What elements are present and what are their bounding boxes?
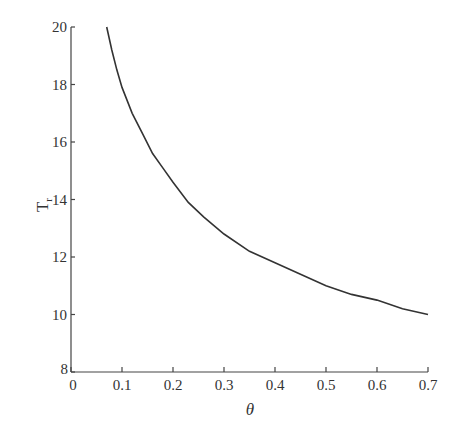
x-tick-label: 0 [69, 377, 77, 393]
x-tick-label: 0.7 [419, 377, 438, 393]
y-tick-label: 18 [52, 77, 67, 93]
y-tick-label: 14 [52, 192, 68, 208]
x-axis-label: θ [246, 400, 254, 419]
x-tick-label: 0.4 [266, 377, 285, 393]
y-axis-label-subscript: r [42, 198, 54, 202]
x-tick-label: 0.6 [368, 377, 387, 393]
y-tick-label: 10 [52, 307, 67, 323]
y-tick-label: 20 [52, 19, 67, 35]
y-axis: 1012141618208 [52, 19, 75, 377]
x-tick-label: 0.1 [113, 377, 132, 393]
y-axis-label: Tr [33, 198, 54, 212]
y-tick-label: 12 [52, 249, 67, 265]
x-tick-label: 0.5 [317, 377, 336, 393]
data-series-line [107, 27, 428, 315]
x-axis: 00.10.20.30.40.50.60.7 [69, 367, 438, 393]
line-chart: 1012141618208 00.10.20.30.40.50.60.7 Tr … [0, 0, 467, 441]
y-tick-label: 16 [52, 134, 68, 150]
x-tick-label: 0.3 [215, 377, 234, 393]
x-tick-label: 0.2 [164, 377, 183, 393]
y-tick-label: 8 [61, 361, 69, 377]
